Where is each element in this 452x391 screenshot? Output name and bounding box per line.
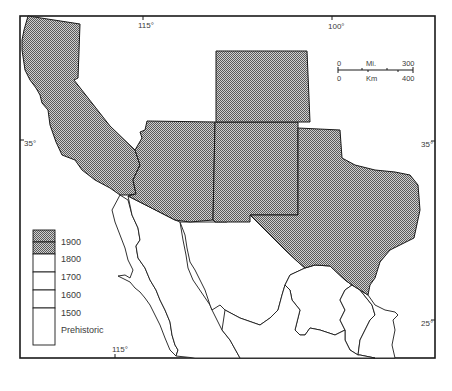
legend-swatch-1600 [33, 290, 55, 308]
lon-label-bottom-115: 115° [112, 345, 128, 354]
scale-km-start: 0 [337, 74, 341, 83]
scale-miles-end: 300 [402, 59, 415, 68]
lat-label-right-35: 35° [421, 140, 433, 149]
map-canvas: 115° 100° 115° 35° 35° 25° 0 Mi. 300 0 K… [0, 0, 452, 391]
region-new-mexico [213, 122, 298, 222]
legend-label-1700: 1700 [61, 272, 81, 282]
legend-swatch-1800 [33, 254, 55, 272]
lon-label-top-115: 115° [138, 21, 154, 30]
lat-label-right-25: 25° [421, 319, 433, 328]
legend-label-1900: 1900 [61, 237, 81, 247]
scale-km-end: 400 [402, 74, 415, 83]
legend-label-1500: 1500 [61, 308, 81, 318]
legend-label-1600: 1600 [61, 290, 81, 300]
scale-miles-start: 0 [337, 59, 341, 68]
legend-swatch-1900-upper [33, 230, 55, 242]
legend-swatch-prehistoric [33, 308, 55, 345]
legend-swatch-1900 [33, 242, 55, 254]
scale-miles-unit: Mi. [366, 59, 376, 68]
legend-label-1800: 1800 [61, 254, 81, 264]
region-colorado [216, 51, 310, 122]
lon-label-top-100: 100° [328, 22, 345, 31]
legend-label-prehistoric: Prehistoric [61, 325, 104, 335]
scale-km-unit: Km [366, 74, 377, 83]
lat-label-left-35: 35° [24, 139, 36, 148]
legend-swatch-1700 [33, 272, 55, 290]
